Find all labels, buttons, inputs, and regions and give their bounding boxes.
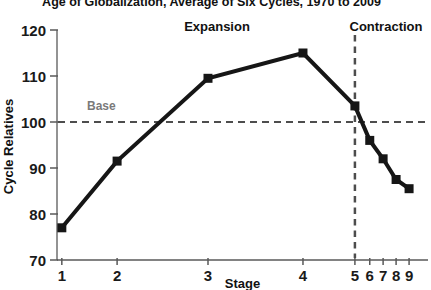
x-axis-title: Stage [57, 276, 428, 290]
data-point-marker [57, 223, 66, 232]
y-tick-label: 90 [29, 160, 46, 177]
data-point-marker [203, 74, 212, 83]
y-tick-label: 70 [29, 252, 46, 269]
data-point-marker [113, 157, 122, 166]
data-point-marker [298, 49, 307, 58]
y-tick-label: 110 [22, 68, 46, 85]
y-tick-label: 80 [29, 206, 46, 223]
y-tick-label: 120 [21, 22, 46, 39]
data-point-marker [365, 136, 374, 145]
expansion-phase-label: Expansion [172, 19, 262, 34]
line-chart-canvas: 708090100110120123456789 [0, 0, 431, 290]
base-line-label: Base [87, 99, 116, 113]
cycle-relatives-chart-figure: 708090100110120123456789 Age of Globaliz… [0, 0, 431, 290]
data-point-marker [379, 154, 388, 163]
chart-title: Age of Globalization, Average of Six Cyc… [0, 0, 423, 9]
contraction-phase-label: Contraction [341, 19, 431, 34]
data-point-marker [350, 101, 359, 110]
data-point-marker [392, 175, 401, 184]
cycle-relatives-line [62, 53, 409, 228]
y-axis-title: Cycle Relatives [1, 87, 16, 207]
y-tick-label: 100 [21, 114, 46, 131]
data-point-marker [405, 184, 414, 193]
